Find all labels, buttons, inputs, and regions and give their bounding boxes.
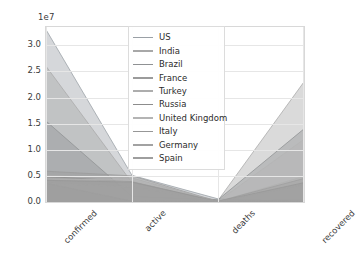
y-axis-offset-label: 1e7	[38, 12, 55, 22]
legend-item[interactable]: Brazil	[133, 58, 219, 71]
legend-line-icon	[133, 90, 153, 92]
y-tick-label: 1.5	[7, 118, 41, 128]
legend-items: USIndiaBrazilFranceTurkeyRussiaUnited Ki…	[133, 31, 219, 165]
legend-item-label: United Kingdom	[159, 114, 227, 123]
y-tick-label: 0.0	[7, 196, 41, 206]
legend-line-icon	[133, 77, 153, 79]
y-tick-label: 2.0	[7, 92, 41, 102]
legend-item-label: Brazil	[159, 60, 183, 69]
x-tick-label: recovered	[319, 208, 356, 245]
legend-item[interactable]: Germany	[133, 138, 219, 151]
legend-item-label: France	[159, 74, 187, 83]
legend-item[interactable]: Italy	[133, 125, 219, 138]
legend-line-icon	[133, 131, 153, 133]
legend-item[interactable]: US	[133, 31, 219, 44]
legend-item-label: Italy	[159, 127, 177, 136]
gridline-horizontal-0	[46, 202, 304, 203]
x-tick-label: active	[143, 208, 168, 233]
x-axis-tick-labels: confirmedactivedeathsrecovered	[0, 206, 330, 264]
legend-item-label: Russia	[159, 100, 186, 109]
legend-item[interactable]: Turkey	[133, 85, 219, 98]
x-tick-label: deaths	[229, 208, 257, 236]
legend-item[interactable]: United Kingdom	[133, 111, 219, 124]
gridline-vertical-3	[303, 27, 304, 202]
y-axis-tick-labels: 0.00.51.01.52.02.53.0	[0, 26, 41, 203]
x-tick-label: confirmed	[62, 208, 99, 245]
gridline-vertical-0	[46, 27, 47, 202]
legend-line-icon	[133, 37, 153, 39]
legend-line-icon	[133, 117, 153, 119]
legend-item-label: Spain	[159, 154, 183, 163]
y-tick-label: 1.0	[7, 144, 41, 154]
legend-item-label: Turkey	[159, 87, 187, 96]
legend-line-icon	[133, 157, 153, 159]
legend-item-label: India	[159, 47, 180, 56]
legend-line-icon	[133, 50, 153, 52]
legend-line-icon	[133, 64, 153, 66]
legend-line-icon	[133, 144, 153, 146]
y-tick-label: 0.5	[7, 170, 41, 180]
legend-item[interactable]: France	[133, 71, 219, 84]
legend-item-label: US	[159, 33, 171, 42]
legend-box[interactable]: USIndiaBrazilFranceTurkeyRussiaUnited Ki…	[128, 26, 225, 170]
gridline-horizontal-1	[46, 176, 304, 177]
legend-line-icon	[133, 104, 153, 106]
legend-item[interactable]: Russia	[133, 98, 219, 111]
y-tick-label: 3.0	[7, 39, 41, 49]
legend-item[interactable]: India	[133, 44, 219, 57]
legend-item-label: Germany	[159, 141, 198, 150]
legend-item[interactable]: Spain	[133, 152, 219, 165]
y-tick-label: 2.5	[7, 65, 41, 75]
